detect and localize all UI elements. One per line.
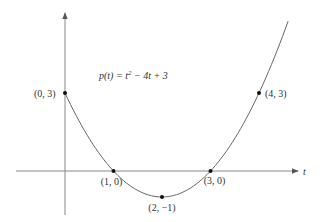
point-label: (4, 3) — [265, 88, 287, 100]
parabola-chart: (0, 3)(1, 0)(2, −1)(3, 0)(4, 3) t p(t) =… — [0, 0, 320, 222]
data-point — [63, 91, 67, 95]
point-label: (0, 3) — [34, 88, 56, 100]
x-axis-label: t — [303, 166, 306, 177]
data-point — [112, 169, 116, 173]
axes — [16, 13, 298, 215]
point-label: (3, 0) — [204, 175, 226, 187]
function-label: p(t) = t2 − 4t + 3 — [98, 69, 168, 82]
point-label: (2, −1) — [148, 202, 175, 214]
data-point — [257, 91, 261, 95]
data-point — [209, 169, 213, 173]
point-label: (1, 0) — [101, 176, 123, 188]
data-point — [160, 195, 164, 199]
